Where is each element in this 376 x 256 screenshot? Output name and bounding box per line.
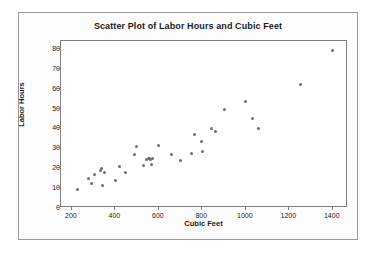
data-point	[150, 163, 153, 166]
data-point	[299, 83, 302, 86]
x-tick-label: 800	[184, 212, 218, 219]
data-point	[331, 49, 334, 52]
data-point	[142, 164, 145, 167]
x-tick-mark	[245, 207, 246, 210]
data-point	[100, 167, 103, 170]
data-point	[193, 133, 196, 136]
x-tick-mark	[71, 207, 72, 210]
data-point	[76, 188, 79, 191]
x-tick-label: 600	[141, 212, 175, 219]
data-point	[251, 117, 254, 120]
data-point	[87, 177, 90, 180]
data-point	[200, 140, 203, 143]
data-point	[223, 108, 226, 111]
data-point	[90, 182, 93, 185]
data-point	[135, 145, 138, 148]
x-tick-mark	[332, 207, 333, 210]
data-point	[170, 153, 173, 156]
x-tick-label: 200	[54, 212, 88, 219]
data-point	[257, 127, 260, 130]
data-point	[151, 157, 154, 160]
plot-area	[60, 40, 347, 207]
data-point	[93, 173, 96, 176]
data-point	[179, 159, 182, 162]
data-point	[118, 165, 121, 168]
data-point	[190, 152, 193, 155]
x-tick-label: 400	[97, 212, 131, 219]
data-point	[103, 171, 106, 174]
x-tick-mark	[201, 207, 202, 210]
data-points-layer	[61, 41, 346, 206]
x-tick-mark	[158, 207, 159, 210]
x-tick-label: 1400	[315, 212, 349, 219]
data-point	[210, 127, 213, 130]
x-axis-label: Cubic Feet	[60, 219, 347, 228]
x-tick-label: 1000	[228, 212, 262, 219]
data-point	[133, 153, 136, 156]
data-point	[114, 179, 117, 182]
x-tick-mark	[288, 207, 289, 210]
y-axis-label: Labor Hours	[17, 70, 26, 140]
data-point	[157, 144, 160, 147]
data-point	[101, 184, 104, 187]
data-point	[214, 130, 217, 133]
data-point	[201, 150, 204, 153]
data-point	[244, 100, 247, 103]
x-tick-label: 1200	[271, 212, 305, 219]
y-axis: 01020304050607080	[36, 40, 60, 207]
scatter-plot-figure: Scatter Plot of Labor Hours and Cubic Fe…	[0, 0, 376, 256]
data-point	[124, 171, 127, 174]
chart-title: Scatter Plot of Labor Hours and Cubic Fe…	[18, 21, 358, 31]
x-tick-mark	[114, 207, 115, 210]
